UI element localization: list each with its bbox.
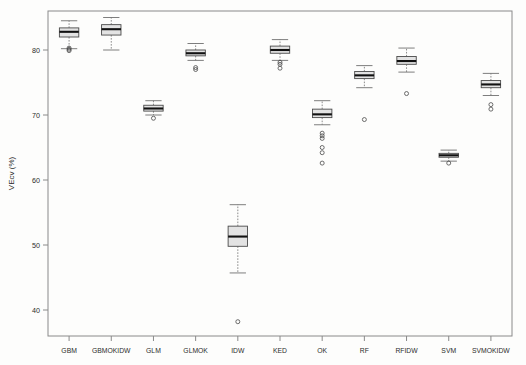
outlier-point <box>362 118 366 122</box>
x-axis-tick-label: GLM <box>146 347 161 354</box>
y-axis-tick-label: 40 <box>32 306 40 315</box>
outlier-point <box>236 320 240 324</box>
outlier-point <box>489 103 493 107</box>
outlier-point <box>489 107 493 111</box>
x-axis-tick-label: RFIDW <box>395 347 418 354</box>
boxplot-ok <box>312 101 331 165</box>
chart-canvas: 4050607080VEcv (%)GBMGBMOKIDWGLMGLMOKIDW… <box>0 0 526 365</box>
x-axis-tick-label: SVMOKIDW <box>472 347 510 354</box>
boxplot-chart: 4050607080VEcv (%)GBMGBMOKIDWGLMGLMOKIDW… <box>0 0 526 365</box>
x-axis-tick-label: KED <box>273 347 287 354</box>
boxplot-rfidw <box>397 48 416 96</box>
boxplot-idw <box>228 205 247 324</box>
boxplot-svmokidw <box>481 73 500 111</box>
y-axis-tick-label: 60 <box>32 176 40 185</box>
outlier-point <box>320 161 324 165</box>
x-axis-tick-label: GBMOKIDW <box>92 347 131 354</box>
boxplot-glmok <box>186 44 205 72</box>
boxplot-gbm <box>59 21 78 53</box>
outlier-point <box>320 136 324 140</box>
x-axis-tick-label: SVM <box>441 347 456 354</box>
x-axis-tick-label: GLMOK <box>183 347 208 354</box>
boxplot-ked <box>270 40 289 71</box>
y-axis-tick-label: 80 <box>32 46 40 55</box>
boxplot-rf <box>355 66 374 122</box>
outlier-point <box>151 116 155 120</box>
x-axis-tick-label: GBM <box>61 347 77 354</box>
outlier-point <box>405 92 409 96</box>
x-axis-tick-label: OK <box>317 347 327 354</box>
outlier-point <box>320 146 324 150</box>
y-axis-title: VEcv (%) <box>7 157 16 191</box>
outlier-point <box>447 161 451 165</box>
y-axis-tick-label: 70 <box>32 111 40 120</box>
x-axis-tick-label: IDW <box>231 347 245 354</box>
outlier-point <box>320 151 324 155</box>
x-axis-tick-label: RF <box>360 347 369 354</box>
y-axis-tick-label: 50 <box>32 241 40 250</box>
boxplot-glm <box>144 101 163 121</box>
outlier-point <box>278 66 282 70</box>
boxplot-svm <box>439 150 458 165</box>
boxplot-gbmokidw <box>102 18 121 51</box>
